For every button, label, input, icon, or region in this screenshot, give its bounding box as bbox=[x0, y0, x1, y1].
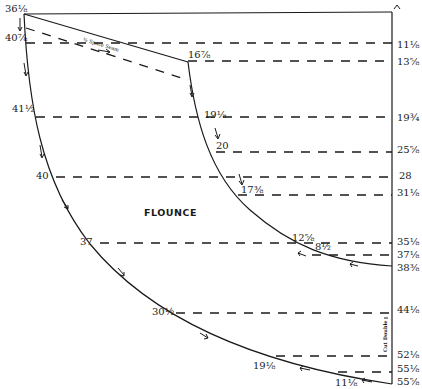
inner-curve-measurement: 17⅜ bbox=[241, 185, 263, 195]
right-edge-measurement: 11⅛ bbox=[397, 40, 419, 50]
outer-curve-measurement: 30½ bbox=[152, 307, 174, 317]
outer-curve-measurement: 41½ bbox=[12, 104, 34, 114]
outer-hem-curve bbox=[24, 14, 392, 384]
top-marker-icon bbox=[394, 5, 400, 9]
outer-curve-measurement: 19⅛ bbox=[253, 361, 275, 371]
right-edge-measurement: 28 bbox=[399, 171, 412, 181]
grain-arrows-icon bbox=[18, 18, 388, 383]
pattern-title: FLOUNCE bbox=[144, 207, 197, 218]
inner-curve bbox=[188, 62, 392, 266]
flounce-pattern-diagram: FLOUNCE ⅜ Space Seam Cut Double 11⅛13⅝19… bbox=[0, 0, 422, 389]
outer-curve-measurement: 36⅛ bbox=[5, 4, 27, 14]
inner-curve-measurement: 20 bbox=[216, 141, 229, 151]
top-edge-line bbox=[24, 12, 392, 14]
right-edge-measurement: 44⅛ bbox=[397, 305, 419, 315]
right-edge-measurement: 13⅝ bbox=[397, 57, 419, 67]
cut-double-note: Cut Double bbox=[382, 320, 388, 352]
inner-curve-measurement: 16⅞ bbox=[188, 50, 210, 60]
right-edge-measurement: 35⅛ bbox=[397, 237, 419, 247]
right-edge-measurement: 25⅝ bbox=[397, 145, 419, 155]
right-edge-measurement: 38⅜ bbox=[397, 263, 419, 273]
outer-curve-measurement: 11⅛ bbox=[335, 378, 357, 388]
right-edge-measurement: 31⅛ bbox=[397, 188, 419, 198]
inner-curve-measurement: 8½ bbox=[315, 242, 331, 252]
outer-curve-measurement: 40⅞ bbox=[5, 33, 27, 43]
inner-curve-measurement: 19⅛ bbox=[204, 110, 226, 120]
inner-curve-measurement: 12⅝ bbox=[292, 233, 314, 243]
outer-curve-measurement: 40 bbox=[36, 171, 49, 181]
right-edge-measurement: 37⅛ bbox=[397, 250, 419, 260]
pattern-drawing bbox=[0, 0, 422, 389]
upper-seam-line bbox=[24, 14, 188, 62]
right-edge-measurement: 19¾ bbox=[397, 113, 419, 123]
right-edge-measurement: 52⅛ bbox=[397, 350, 419, 360]
right-edge-measurement: 55⅛ bbox=[397, 364, 419, 374]
outer-curve-measurement: 37 bbox=[80, 237, 93, 247]
right-edge-measurement: 55⅝ bbox=[397, 377, 419, 387]
